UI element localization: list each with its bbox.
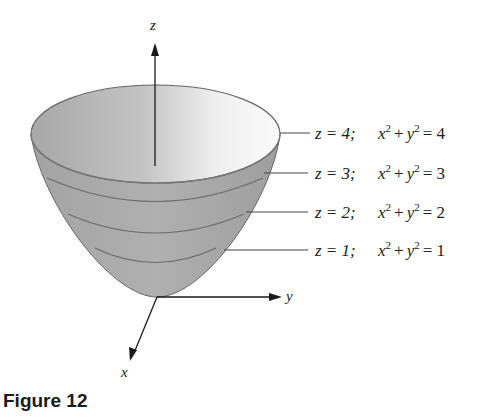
z-axis-label: z [149,17,156,33]
svg-text:x2+y2= 2: x2+y2= 2 [377,201,445,222]
y-axis-arrowhead-icon [269,293,282,301]
svg-text:z = 4;: z = 4; [314,124,356,143]
paraboloid-figure: z y x z = 4; x2+y2= 4 z = 3; x2+y2= 3 z … [0,0,495,418]
level-label-z3: z = 3; x2+y2= 3 [314,162,445,183]
svg-text:x2+y2= 3: x2+y2= 3 [377,162,445,183]
svg-text:z = 3;: z = 3; [314,164,356,183]
level-label-z4: z = 4; x2+y2= 4 [314,122,446,143]
svg-text:x2+y2= 4: x2+y2= 4 [377,122,446,143]
level-label-z2: z = 2; x2+y2= 2 [314,201,445,222]
figure-caption: Figure 12 [3,390,87,412]
svg-text:x2+y2= 1: x2+y2= 1 [377,239,445,260]
y-axis-label: y [284,288,293,304]
z-axis-arrowhead-icon [151,43,159,56]
x-axis-label: x [120,364,128,380]
svg-text:z = 1;: z = 1; [314,241,356,260]
level-label-z1: z = 1; x2+y2= 1 [314,239,445,260]
svg-text:z = 2;: z = 2; [314,203,356,222]
x-axis [134,297,157,353]
